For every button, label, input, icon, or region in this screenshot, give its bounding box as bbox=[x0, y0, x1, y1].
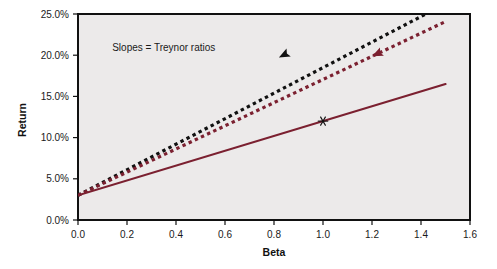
x-tick-label: 0.8 bbox=[267, 229, 281, 240]
y-tick-label: 5.0% bbox=[46, 173, 69, 184]
x-tick-label: 1.2 bbox=[365, 229, 379, 240]
annotations-group: Slopes = Treynor ratios bbox=[112, 42, 215, 53]
x-tick-label: 0.2 bbox=[120, 229, 134, 240]
chart-figure: 0.00.20.40.60.81.01.21.41.6 0.0%5.0%10.0… bbox=[0, 0, 497, 269]
chart-canvas: 0.00.20.40.60.81.01.21.41.6 0.0%5.0%10.0… bbox=[0, 0, 497, 269]
x-tick-label: 1.0 bbox=[316, 229, 330, 240]
annotation-slopes-note: Slopes = Treynor ratios bbox=[112, 42, 215, 53]
x-axis-title: Beta bbox=[263, 246, 286, 258]
x-tick-label: 0.4 bbox=[169, 229, 183, 240]
y-tick-label: 10.0% bbox=[41, 132, 69, 143]
x-tick-label: 0.0 bbox=[71, 229, 85, 240]
x-tick-label: 0.6 bbox=[218, 229, 232, 240]
x-tick-label: 1.6 bbox=[463, 229, 477, 240]
y-axis-title: Return bbox=[16, 103, 28, 137]
x-tick-label: 1.4 bbox=[414, 229, 428, 240]
y-tick-label: 0.0% bbox=[46, 215, 69, 226]
y-tick-label: 25.0% bbox=[41, 9, 69, 20]
y-tick-label: 20.0% bbox=[41, 50, 69, 61]
y-tick-label: 15.0% bbox=[41, 91, 69, 102]
